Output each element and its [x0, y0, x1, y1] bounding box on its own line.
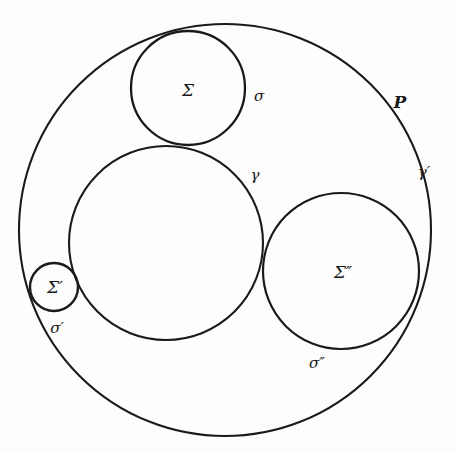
label-sigma-prime-arc: σ′ — [50, 321, 64, 336]
label-sigma-double-prime-arc: σ″ — [309, 356, 325, 371]
label-P: P — [394, 94, 407, 111]
geometric-figure: Σ σ γ P γ′ Σ′ σ′ Σ″ σ″ — [0, 0, 456, 451]
label-sigma-prime: Σ′ — [47, 279, 63, 296]
label-sigma-arc: σ — [254, 89, 264, 104]
label-gamma-prime: γ′ — [418, 165, 430, 180]
label-gamma: γ — [251, 168, 260, 183]
label-sigma: Σ — [182, 82, 194, 99]
circle-diagram-canvas — [0, 0, 456, 451]
label-sigma-double-prime: Σ″ — [334, 264, 352, 281]
circle-gamma — [69, 146, 263, 340]
outer-circle-P — [19, 24, 431, 436]
